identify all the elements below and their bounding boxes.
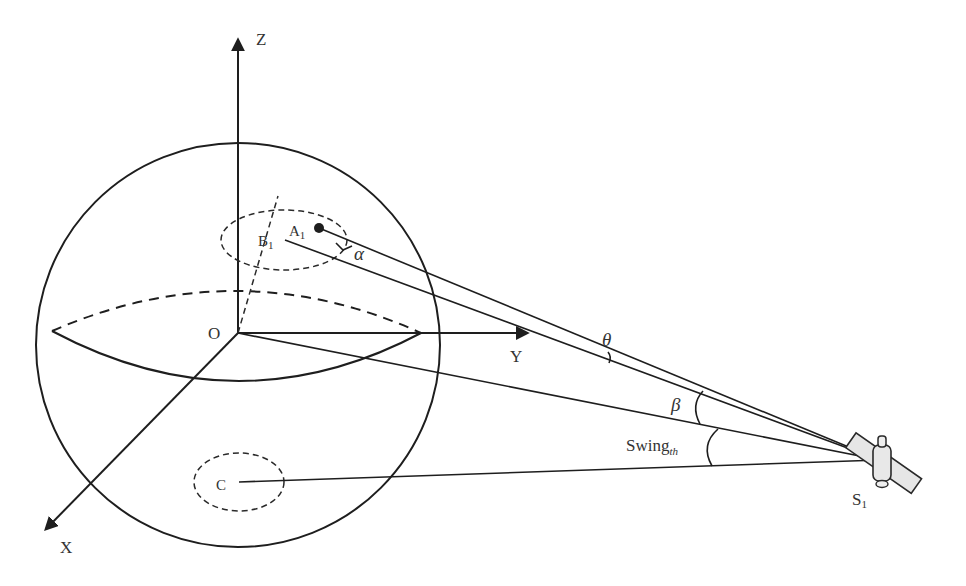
ray-a1-satellite bbox=[319, 228, 880, 460]
diagram-canvas: Z Y X O B1 A1 C α θ β Swingth S1 bbox=[0, 0, 966, 586]
c-label: C bbox=[216, 477, 226, 493]
swing-label: Swingth bbox=[626, 436, 679, 457]
z-axis-label: Z bbox=[256, 30, 266, 49]
equator-front-solid bbox=[52, 331, 421, 381]
y-axis-label: Y bbox=[510, 347, 522, 366]
satellite-label: S1 bbox=[852, 490, 867, 510]
equator-back-dashed bbox=[52, 291, 421, 333]
beta-arc bbox=[696, 391, 703, 424]
b1-label: B1 bbox=[258, 233, 274, 251]
x-axis-label: X bbox=[60, 538, 72, 557]
ray-b1-satellite bbox=[285, 240, 880, 460]
alpha-right-angle-marker bbox=[336, 243, 352, 250]
coverage-ellipse-a1-b1 bbox=[221, 210, 347, 270]
beta-label: β bbox=[670, 394, 681, 415]
origin-label: O bbox=[208, 324, 220, 343]
sight-lines bbox=[238, 228, 880, 482]
a1-label: A1 bbox=[289, 223, 305, 241]
equator bbox=[52, 291, 421, 381]
theta-arc bbox=[608, 352, 610, 363]
theta-label: θ bbox=[602, 329, 611, 350]
alpha-label: α bbox=[354, 243, 365, 264]
swing-arc bbox=[707, 429, 718, 466]
satellite-icon bbox=[846, 433, 922, 494]
ray-c-satellite bbox=[239, 460, 880, 482]
ray-origin-satellite bbox=[238, 333, 880, 460]
x-axis bbox=[46, 333, 238, 529]
